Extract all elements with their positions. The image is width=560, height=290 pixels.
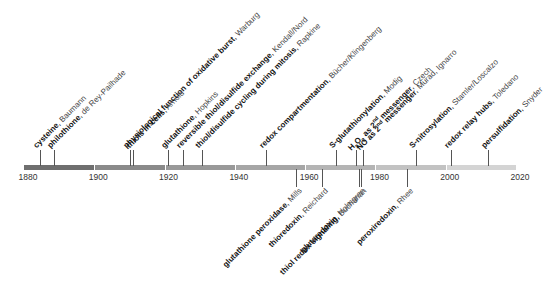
event-author: Arnold <box>163 89 186 112</box>
event-label: redox relay hubs, Toledano <box>443 73 520 150</box>
event-author: Toledano <box>491 72 520 101</box>
event-topic: peroxiredoxin <box>355 203 399 247</box>
event-tick <box>363 150 364 166</box>
event-tick <box>202 150 203 166</box>
event-author: Reichard <box>301 186 330 215</box>
year-label: 1900 <box>89 172 108 182</box>
event-tick <box>322 169 323 187</box>
event-tick <box>336 150 337 166</box>
event-tick <box>488 150 489 166</box>
event-tick <box>361 169 362 187</box>
year-label: 1940 <box>229 172 248 182</box>
axis-segment <box>376 165 445 170</box>
year-label: 1980 <box>370 172 389 182</box>
event-label: reversible thiol/disulfide exchange, Ken… <box>175 16 309 150</box>
event-author: Bücher/Klingenberg <box>327 24 383 80</box>
event-label: thiol/disulfide cycling during mitosis, … <box>194 22 322 150</box>
event-tick <box>451 150 452 166</box>
event-tick <box>296 169 297 187</box>
event-tick <box>183 150 184 166</box>
axis-segment <box>447 165 516 170</box>
year-label: 1880 <box>19 172 38 182</box>
event-author: Rhee <box>395 186 415 206</box>
event-tick <box>356 150 357 166</box>
year-label: 2000 <box>440 172 459 182</box>
axis-segment <box>306 165 375 170</box>
redox-history-timeline: 18801900192019401960198020002020 cystein… <box>0 0 560 290</box>
event-tick <box>416 150 417 166</box>
year-label: 1920 <box>159 172 178 182</box>
year-label: 2020 <box>511 172 530 182</box>
event-tick <box>266 150 267 166</box>
event-topic: redox compartmentation <box>258 77 331 150</box>
axis-segment <box>24 165 94 170</box>
event-tick <box>130 150 131 166</box>
axis-segment <box>166 165 235 170</box>
event-tick <box>54 150 55 166</box>
event-tick <box>359 169 360 187</box>
event-tick <box>168 150 169 166</box>
event-topic: reversible thiol/disulfide exchange <box>175 51 274 150</box>
event-tick <box>407 169 408 187</box>
event-author: de Rey-Pailhade <box>79 68 127 116</box>
axis-segment <box>236 165 305 170</box>
event-tick <box>40 150 41 166</box>
event-label: philothione, de Rey-Pailhade <box>46 69 127 150</box>
year-label: 1960 <box>300 172 319 182</box>
event-author: Snyder <box>520 85 544 109</box>
event-author: Mills <box>286 186 304 204</box>
event-author: Warburg <box>234 10 262 38</box>
event-author: Buchanan <box>337 186 369 218</box>
event-tick <box>133 150 134 166</box>
